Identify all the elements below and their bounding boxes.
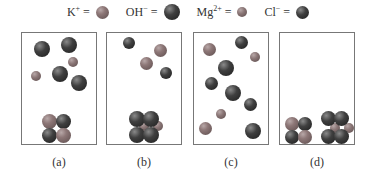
ion-legend: K+ = OH− = Mg2+ = Cl− =: [0, 4, 376, 20]
potassium-ion-icon: [199, 122, 212, 135]
potassium-ion-icon: [203, 43, 216, 56]
ion-symbol: Mg: [197, 5, 214, 19]
panel-label-d: (d): [279, 155, 355, 170]
legend-item-magnesium: Mg2+ =: [197, 4, 248, 20]
hydroxide-ion-icon: [218, 60, 234, 76]
hydroxide-ion-icon: [143, 111, 159, 127]
ion-charge: +: [76, 4, 81, 13]
legend-item-potassium: K+ =: [67, 4, 109, 20]
ion-charge: −: [276, 4, 281, 13]
chloride-ion-icon: [285, 130, 299, 144]
equals-sign: =: [283, 5, 290, 19]
chloride-ion-icon: [42, 128, 57, 143]
hydroxide-ion-icon: [61, 37, 77, 53]
magnesium-ion-icon: [250, 52, 260, 62]
equals-sign: =: [151, 5, 158, 19]
potassium-ion-icon: [56, 128, 71, 143]
potassium-ion-icon: [285, 117, 299, 131]
magnesium-ion-icon: [216, 109, 226, 119]
hydroxide-ion-icon: [334, 111, 349, 126]
potassium-ion-icon: [42, 114, 57, 129]
equals-sign: =: [225, 5, 232, 19]
chloride-ion-icon: [296, 6, 309, 19]
hydroxide-ion-icon: [245, 123, 261, 139]
hydroxide-ion-icon: [334, 129, 349, 144]
chloride-ion-icon: [298, 117, 312, 131]
equals-sign: =: [83, 5, 90, 19]
legend-item-hydroxide: OH− =: [126, 4, 180, 20]
chloride-ion-icon: [56, 114, 71, 129]
hydroxide-ion-icon: [225, 85, 241, 101]
magnesium-ion-icon: [237, 7, 247, 17]
hydroxide-ion-icon: [52, 66, 68, 82]
chloride-ion-icon: [244, 98, 257, 111]
hydroxide-ion-icon: [34, 41, 50, 57]
potassium-ion-icon: [298, 130, 312, 144]
ion-symbol: OH: [126, 5, 143, 19]
panel-label-b: (b): [106, 155, 182, 170]
beaker-panel-d: [279, 32, 355, 145]
hydroxide-ion-icon: [164, 4, 180, 20]
ion-symbol: K: [67, 5, 76, 19]
potassium-ion-icon: [140, 57, 153, 70]
beaker-panel-b: [106, 32, 182, 145]
magnesium-ion-icon: [31, 71, 41, 81]
panel-label-c: (c): [193, 155, 269, 170]
beaker-panel-a: [21, 32, 97, 145]
potassium-ion-icon: [96, 6, 109, 19]
legend-item-chloride: Cl− =: [264, 4, 309, 20]
panel-label-a: (a): [21, 155, 97, 170]
magnesium-ion-icon: [68, 57, 78, 67]
hydroxide-ion-icon: [71, 75, 87, 91]
chloride-ion-icon: [235, 36, 248, 49]
chloride-ion-icon: [205, 77, 218, 90]
chloride-ion-icon: [160, 67, 172, 79]
ion-symbol: Cl: [264, 5, 275, 19]
ion-charge: −: [143, 4, 148, 13]
ion-charge: 2+: [213, 4, 222, 13]
beaker-panel-c: [193, 32, 269, 145]
hydroxide-ion-icon: [143, 127, 159, 143]
potassium-ion-icon: [154, 44, 167, 57]
chloride-ion-icon: [123, 37, 135, 49]
